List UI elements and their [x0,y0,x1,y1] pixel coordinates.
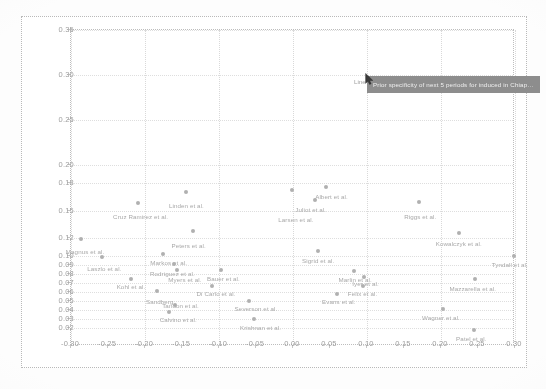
data-point-label: Felix et al. [348,290,377,297]
x-tick-label: 0.30 [506,339,521,348]
data-point-label: Larsen et al. [278,216,313,223]
data-point-label: Di Carlo et al. [197,290,236,297]
data-point[interactable] [172,262,176,266]
data-point[interactable] [161,252,165,256]
x-tick-label: -0.10 [209,339,227,348]
data-point-label: Peters et al. [171,242,205,249]
y-tick-label: 0.12 [59,232,74,241]
x-tick-label: 0.15 [395,339,410,348]
data-point-label: Krishnan et al. [240,324,281,331]
gridline-horizontal [71,183,513,184]
data-point[interactable] [290,188,294,192]
data-point[interactable] [247,299,251,303]
data-point[interactable] [441,307,445,311]
gridline-horizontal [71,120,513,121]
gridline-horizontal [71,328,513,329]
data-point-label: Linden et al. [169,202,204,209]
gridline-horizontal [71,301,513,302]
data-point[interactable] [457,231,461,235]
data-point[interactable] [316,249,320,253]
data-point[interactable] [362,275,366,279]
gridline-horizontal [71,319,513,320]
data-point[interactable] [252,317,256,321]
y-tick-label: 0.18 [59,178,74,187]
gridline-horizontal [71,274,513,275]
data-point-label: Mazzarella et al. [449,285,496,292]
data-point-label: Tandon et al. [162,302,199,309]
data-point[interactable] [167,310,171,314]
x-tick-label: 0.00 [284,339,299,348]
x-tick-label: -0.25 [98,339,116,348]
y-tick-label: 0.35 [59,25,74,34]
data-point-label: Myers et al. [168,276,201,283]
data-point-label: Rodriguez et al. [150,270,195,277]
data-point[interactable] [184,190,188,194]
data-point-label: Tyndall et al. [492,261,528,268]
data-point[interactable] [361,284,365,288]
data-point-label: Laszlo et al. [87,265,121,272]
gridline-horizontal [71,30,513,31]
data-point-label: Severson et al. [235,305,278,312]
gridline-vertical [293,30,294,344]
y-tick-label: 0.03 [59,313,74,322]
data-point[interactable] [313,198,317,202]
gridline-horizontal [71,211,513,212]
mouse-cursor-icon [365,73,374,85]
data-point[interactable] [210,284,214,288]
gridline-horizontal [71,265,513,266]
data-point[interactable] [136,201,140,205]
data-point[interactable] [173,303,177,307]
hover-tooltip[interactable]: Prior specificity of next 5 periods for … [367,76,540,93]
data-point-label: Bauer et al. [207,275,240,282]
data-point-label: Albert et al. [315,193,348,200]
data-point-label: Juliot et al. [295,206,326,213]
data-point[interactable] [512,254,516,258]
screenshot-root: Linden et al.Cruz Ramirez et al.Magnus e… [0,0,546,389]
gridline-vertical [145,30,146,344]
gridline-horizontal [71,310,513,311]
y-tick-label: 0.05 [59,295,74,304]
y-tick-label: 0.09 [59,259,74,268]
data-point[interactable] [324,185,328,189]
data-point-label: Kohl et al. [117,283,146,290]
data-point[interactable] [129,277,133,281]
gridline-horizontal [71,238,513,239]
data-point-label: Marlin et al. [339,276,372,283]
hover-tooltip-text: Prior specificity of next 5 periods for … [373,81,534,88]
data-point[interactable] [335,292,339,296]
x-tick-label: 0.20 [432,339,447,348]
x-tick-label: -0.20 [135,339,153,348]
y-tick-label: 0.25 [59,115,74,124]
plot-area[interactable]: Linden et al.Cruz Ramirez et al.Magnus e… [70,29,514,345]
gridline-vertical [219,30,220,344]
y-tick-label: 0.07 [59,277,74,286]
data-point[interactable] [352,269,356,273]
data-point[interactable] [155,289,159,293]
y-tick-label: 0.08 [59,268,74,277]
data-point[interactable] [473,277,477,281]
x-tick-label: -0.05 [246,339,264,348]
hover-series-label: Line [354,78,366,85]
data-point-label: Wagner et al. [422,314,460,321]
data-point[interactable] [472,328,476,332]
data-point[interactable] [191,229,195,233]
data-point[interactable] [417,200,421,204]
data-point-label: Calvino et al. [160,316,197,323]
gridline-horizontal [71,292,513,293]
y-tick-label: 0.04 [59,304,74,313]
data-point-label: Sandberg [146,298,174,305]
data-point-label: Cruz Ramirez et al. [113,213,168,220]
data-point[interactable] [100,255,104,259]
x-tick-label: 0.25 [469,339,484,348]
gridline-horizontal [71,283,513,284]
data-point-label: Sigrid et al. [302,257,334,264]
data-point[interactable] [219,268,223,272]
data-point[interactable] [79,237,83,241]
gridline-horizontal [71,165,513,166]
x-tick-label: -0.30 [61,339,79,348]
data-point-label: Kowalczyk et al. [436,240,482,247]
y-tick-label: 0.30 [59,70,74,79]
y-tick-label: 0.02 [59,322,74,331]
data-point-label: Evans et al. [322,298,356,305]
data-point[interactable] [175,268,179,272]
